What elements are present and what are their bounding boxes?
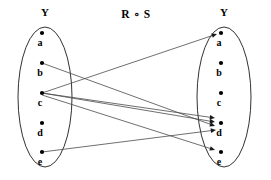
edge-c-d2-arrowhead-icon <box>209 119 215 124</box>
right-set-nodes: abcde <box>216 31 223 167</box>
edge-b-d1 <box>42 63 211 125</box>
right-node-label-c: c <box>217 97 222 108</box>
edge-c-d1-arrowhead-icon <box>210 115 215 120</box>
right-node-dot-d <box>219 121 223 125</box>
relation-title: R ∘ S <box>121 8 150 20</box>
left-node-label-b: b <box>37 67 43 78</box>
left-node-dot-c <box>40 91 44 95</box>
left-node-dot-b <box>40 61 44 65</box>
edge-c-a <box>42 35 213 93</box>
right-node-label-d: d <box>216 127 222 138</box>
left-node-label-d: d <box>37 127 43 138</box>
left-node-label-c: c <box>38 97 43 108</box>
left-node-label-a: a <box>38 37 43 48</box>
left-node-dot-d <box>40 121 44 125</box>
left-node-dot-a <box>40 31 44 35</box>
edge-e-d-arrowhead-icon <box>211 128 216 133</box>
left-node-dot-e <box>40 150 44 154</box>
right-node-dot-c <box>219 91 223 95</box>
left-node-label-e: e <box>38 156 43 167</box>
left-set-nodes: abcde <box>37 31 44 167</box>
right-node-label-b: b <box>216 67 222 78</box>
right-node-dot-a <box>219 31 223 35</box>
left-set-title: Y <box>41 6 49 18</box>
right-set-title: Y <box>220 6 228 18</box>
right-node-dot-b <box>219 61 223 65</box>
edge-c-d2 <box>42 93 211 121</box>
edge-c-d1 <box>42 93 211 117</box>
right-node-label-e: e <box>217 156 222 167</box>
right-node-dot-e <box>219 150 223 154</box>
edge-c-e <box>42 95 211 149</box>
edge-c-e-arrowhead-icon <box>209 146 215 150</box>
right-set-ellipse <box>197 27 251 167</box>
right-node-label-a: a <box>217 37 222 48</box>
diagram-canvas: R ∘ S Y Y abcde abcde <box>0 0 271 180</box>
relation-composition-diagram: R ∘ S Y Y abcde abcde <box>0 0 271 180</box>
